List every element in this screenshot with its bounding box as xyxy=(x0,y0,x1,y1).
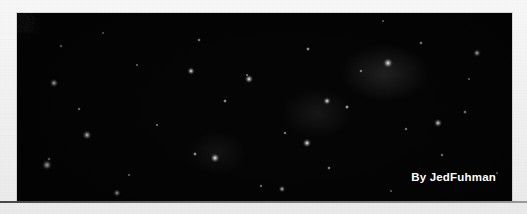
top-caption-strip: DEEP FIELD SURVEY xyxy=(0,0,527,12)
caption-text: DEEP FIELD SURVEY xyxy=(384,0,471,2)
photo-credit-byline: By JedFuhman xyxy=(411,171,496,183)
star-field-photograph: By JedFuhman xyxy=(17,13,512,201)
scan-edge-line xyxy=(0,201,527,203)
scanned-page-background: DEEP FIELD SURVEY By JedFuhman xyxy=(0,0,527,214)
